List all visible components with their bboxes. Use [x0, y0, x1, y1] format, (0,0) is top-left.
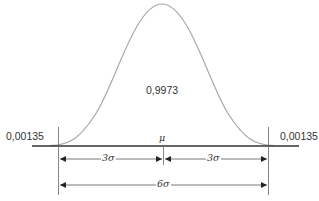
right-3sigma-label: 3σ	[206, 153, 221, 163]
total-6sigma-label: 6σ	[156, 179, 171, 189]
normal-distribution-diagram	[0, 0, 319, 201]
left-3sigma-label: 3σ	[101, 153, 116, 163]
mean-label: μ	[158, 133, 166, 143]
bell-curve	[50, 4, 274, 146]
center-probability-label: 0,9973	[146, 85, 178, 96]
right-tail-probability-label: 0,00135	[280, 131, 318, 142]
left-tail-probability-label: 0,00135	[6, 131, 44, 142]
